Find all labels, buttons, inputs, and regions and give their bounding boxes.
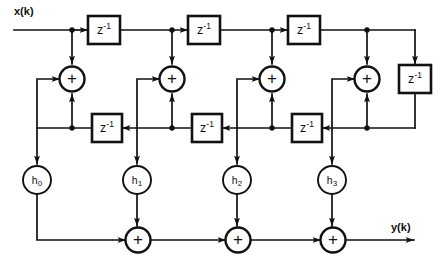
- coef-h3-sub: 3: [333, 179, 338, 188]
- coef-h3: h3: [318, 166, 346, 194]
- sum-output-3: +: [321, 228, 346, 253]
- junction-dot-bus-1: [69, 125, 74, 130]
- top-delay-1-exp: -1: [103, 21, 111, 31]
- right-delay: z-1: [399, 65, 431, 93]
- hook-wire-sum-upper-2: [237, 79, 260, 128]
- top-delay-2-exp: -1: [203, 21, 211, 31]
- fb-delay-2-exp: -1: [206, 119, 214, 129]
- sum-output-2: +: [226, 228, 251, 253]
- sum-output-3-symbol: +: [328, 230, 338, 249]
- sum-upper-3: +: [355, 67, 380, 92]
- fb-delay-3: z-1: [292, 114, 322, 142]
- junction-dot-bus-3: [269, 125, 274, 130]
- top-delay-1: z-1: [88, 16, 120, 44]
- junction-dot-bus-4: [364, 125, 369, 130]
- sum-output-2-symbol: +: [233, 230, 243, 249]
- coef-h2: h2: [223, 166, 251, 194]
- coef-h0-sub: 0: [38, 179, 43, 188]
- coef-h1: h1: [123, 166, 151, 194]
- top-delay-3: z-1: [288, 16, 320, 44]
- fb-delay-2: z-1: [192, 114, 222, 142]
- sum-upper-2-symbol: +: [267, 69, 277, 88]
- sum-upper-0-symbol: +: [67, 69, 77, 88]
- output-label: y(k): [391, 221, 411, 233]
- hook-wire-sum-upper-3: [332, 79, 355, 128]
- sum-output-1-symbol: +: [133, 230, 143, 249]
- sum-upper-3-symbol: +: [362, 69, 372, 88]
- wire-h0-to-sum-output-1: [37, 194, 126, 240]
- coef-h0: h0: [23, 166, 51, 194]
- sum-upper-1-symbol: +: [167, 69, 177, 88]
- right-delay-exp: -1: [414, 70, 422, 80]
- hook-wire-sum-upper-1: [137, 79, 160, 128]
- sum-upper-0: +: [60, 67, 85, 92]
- fb-delay-1-exp: -1: [106, 119, 114, 129]
- flow-graph-canvas: z-1 z-1 z-1 z-1 + + +: [0, 0, 443, 264]
- coef-h1-sub: 1: [138, 179, 143, 188]
- input-label: x(k): [14, 5, 34, 17]
- coef-h2-sub: 2: [238, 179, 243, 188]
- fb-delay-1: z-1: [92, 114, 122, 142]
- top-delay-2: z-1: [188, 16, 220, 44]
- sum-upper-1: +: [160, 67, 185, 92]
- signal-flow-diagram: z-1 z-1 z-1 z-1 + + +: [0, 0, 443, 264]
- sum-output-1: +: [126, 228, 151, 253]
- hook-wire-sum-upper-0: [37, 79, 60, 128]
- junction-dot-bus-2: [169, 125, 174, 130]
- top-delay-3-exp: -1: [303, 21, 311, 31]
- sum-upper-2: +: [260, 67, 285, 92]
- fb-delay-3-exp: -1: [306, 119, 314, 129]
